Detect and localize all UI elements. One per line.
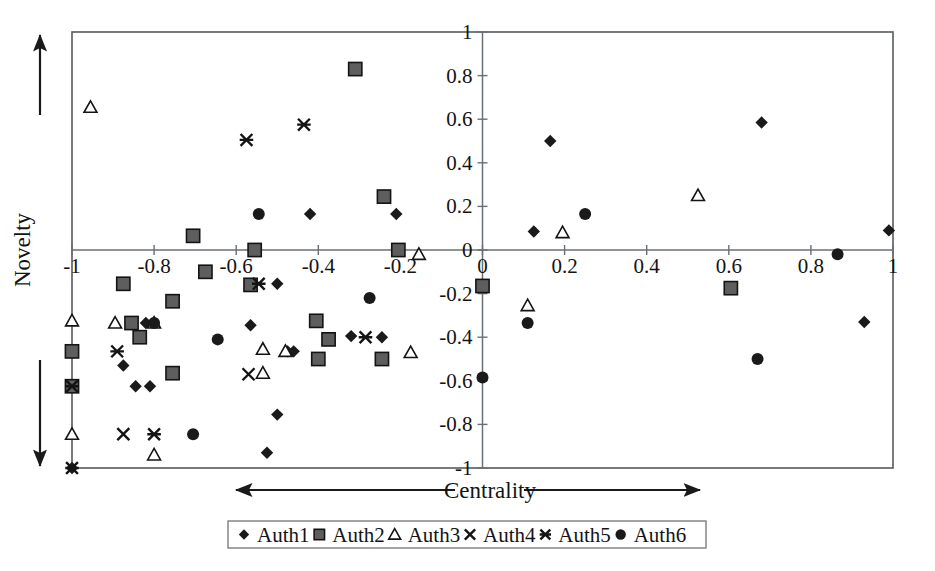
point-auth1-13 [129, 380, 141, 392]
series-auth4 [117, 368, 254, 440]
y-tick-label-10: -1 [455, 456, 473, 480]
plot-canvas: -1-0.8-0.6-0.4-0.200.20.40.60.81 10.80.6… [0, 0, 935, 571]
legend-label-auth6: Auth6 [634, 523, 687, 547]
point-auth3-13 [521, 299, 534, 310]
y-tick-label-9: -0.8 [439, 412, 472, 436]
point-auth6-0 [253, 208, 265, 220]
point-auth6-6 [832, 248, 844, 260]
point-auth5-0 [240, 134, 254, 146]
x-tick-label-10: 1 [888, 254, 899, 278]
point-auth3-12 [692, 189, 705, 200]
point-auth5-1 [297, 119, 311, 131]
legend-marker-circle-icon [615, 529, 625, 539]
point-auth2-11 [65, 345, 78, 358]
x-tick-label-7: 0.4 [634, 254, 661, 278]
point-auth6-7 [522, 317, 534, 329]
point-auth4-0 [117, 428, 129, 440]
x-tick-label-8: 0.6 [716, 254, 742, 278]
point-auth3-8 [256, 367, 269, 378]
point-auth2-19 [724, 282, 737, 295]
x-tick-label-0: -1 [63, 254, 81, 278]
y-axis-title: Novelty [10, 212, 35, 287]
series-auth1 [66, 116, 895, 474]
series-auth5 [65, 119, 372, 474]
point-auth1-14 [144, 380, 156, 392]
point-auth2-12 [166, 367, 179, 380]
point-auth1-12 [117, 359, 129, 371]
point-auth1-17 [271, 408, 283, 420]
point-auth1-2 [528, 225, 540, 237]
point-auth1-9 [244, 319, 256, 331]
legend-label-auth3: Auth3 [408, 523, 461, 547]
series-auth2 [65, 62, 737, 392]
x-tick-label-3: -0.4 [302, 254, 336, 278]
point-auth3-6 [404, 346, 417, 357]
point-auth3-0 [84, 101, 97, 112]
point-auth2-5 [199, 265, 212, 278]
x-tick-label-4: -0.2 [384, 254, 417, 278]
point-auth2-2 [377, 190, 390, 203]
point-auth2-13 [310, 314, 323, 327]
y-tick-label-2: 0.6 [446, 107, 472, 131]
y-tick-label-6: -0.2 [439, 282, 472, 306]
point-auth2-10 [133, 331, 146, 344]
point-auth2-14 [322, 333, 335, 346]
point-auth1-18 [261, 447, 273, 459]
point-auth2-6 [117, 277, 130, 290]
x-tick-label-2: -0.6 [220, 254, 253, 278]
y-tick-label-7: -0.4 [439, 325, 473, 349]
point-auth3-2 [66, 314, 79, 325]
point-auth3-11 [556, 226, 569, 237]
point-auth2-0 [349, 62, 362, 75]
point-auth1-20 [858, 316, 870, 328]
y-tick-label-1: 0.8 [446, 64, 472, 88]
point-auth2-18 [476, 279, 489, 292]
point-auth5-6 [147, 428, 161, 440]
point-auth6-5 [579, 208, 591, 220]
point-auth1-6 [271, 278, 283, 290]
x-axis-tick-labels: -1-0.8-0.6-0.4-0.200.20.40.60.81 [63, 254, 898, 278]
point-auth6-9 [752, 353, 764, 365]
point-auth1-1 [390, 208, 402, 220]
point-auth1-0 [304, 208, 316, 220]
y-tick-label-3: 0.4 [446, 151, 473, 175]
point-auth1-11 [376, 331, 388, 343]
x-tick-label-6: 0.2 [551, 254, 577, 278]
y-tick-label-5: 0 [462, 238, 473, 262]
point-auth2-15 [375, 352, 388, 365]
point-auth3-5 [256, 343, 269, 354]
x-tick-label-5: 0 [477, 254, 488, 278]
scatter-plot-figure: -1-0.8-0.6-0.4-0.200.20.40.60.81 10.80.6… [0, 0, 935, 571]
point-auth1-10 [345, 330, 357, 342]
point-auth3-3 [109, 317, 122, 328]
point-auth6-4 [187, 428, 199, 440]
point-auth1-3 [544, 135, 556, 147]
point-auth6-2 [212, 333, 224, 345]
point-auth3-9 [66, 428, 79, 439]
point-auth3-10 [148, 448, 161, 459]
legend: Auth1Auth2Auth3Auth4Auth5Auth6 [228, 521, 706, 548]
legend-label-auth5: Auth5 [558, 523, 611, 547]
y-tick-label-4: 0.2 [446, 194, 472, 218]
legend-label-auth4: Auth4 [483, 523, 536, 547]
y-tick-label-0: 1 [462, 20, 473, 44]
point-auth6-3 [364, 292, 376, 304]
point-auth5-3 [110, 345, 124, 357]
point-auth2-1 [186, 229, 199, 242]
series-auth3 [66, 101, 705, 460]
legend-label-auth1: Auth1 [257, 523, 310, 547]
point-auth6-1 [148, 317, 160, 329]
point-auth2-4 [392, 243, 405, 256]
y-tick-label-8: -0.6 [439, 369, 472, 393]
point-auth2-8 [166, 295, 179, 308]
point-auth2-9 [125, 316, 138, 329]
point-auth2-3 [248, 243, 261, 256]
legend-marker-square-icon [314, 529, 324, 539]
x-tick-label-9: 0.8 [798, 254, 824, 278]
legend-label-auth2: Auth2 [332, 523, 385, 547]
x-axis-title: Centrality [444, 478, 536, 503]
point-auth1-4 [755, 116, 767, 128]
point-auth6-8 [477, 372, 489, 384]
point-auth5-2 [252, 278, 266, 290]
point-auth4-1 [243, 368, 255, 380]
